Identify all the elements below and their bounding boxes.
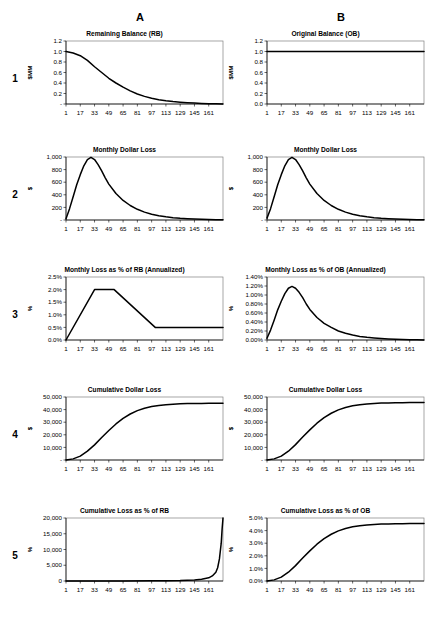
svg-text:129: 129 xyxy=(175,109,186,116)
svg-text:161: 161 xyxy=(204,465,215,472)
svg-text:20,000: 20,000 xyxy=(43,514,62,521)
svg-text:-: - xyxy=(60,456,62,463)
svg-text:0.0: 0.0 xyxy=(254,100,263,107)
svg-text:0.6: 0.6 xyxy=(53,69,62,76)
svg-text:15,000: 15,000 xyxy=(43,530,62,537)
svg-text:%: % xyxy=(26,546,33,552)
svg-text:1.2: 1.2 xyxy=(53,37,62,44)
svg-text:97: 97 xyxy=(349,345,356,352)
svg-text:129: 129 xyxy=(376,586,387,593)
svg-text:200: 200 xyxy=(52,204,63,211)
svg-text:145: 145 xyxy=(390,465,401,472)
svg-text:2.0%: 2.0% xyxy=(249,552,264,559)
svg-text:129: 129 xyxy=(376,225,387,232)
svg-text:30,000: 30,000 xyxy=(43,418,62,425)
svg-text:129: 129 xyxy=(376,465,387,472)
svg-text:33: 33 xyxy=(292,345,299,352)
svg-text:1: 1 xyxy=(265,586,269,593)
svg-text:0.0%: 0.0% xyxy=(249,577,264,584)
svg-text:81: 81 xyxy=(134,465,141,472)
svg-text:81: 81 xyxy=(335,225,342,232)
svg-text:600: 600 xyxy=(52,178,63,185)
row-number-3: 3 xyxy=(8,309,22,320)
svg-text:0.2: 0.2 xyxy=(254,90,263,97)
svg-text:33: 33 xyxy=(292,465,299,472)
svg-text:65: 65 xyxy=(321,586,328,593)
svg-text:81: 81 xyxy=(335,109,342,116)
svg-text:3.0%: 3.0% xyxy=(249,539,264,546)
chart-panel-r2b: Monthly Dollar Loss -2004006008001,00011… xyxy=(223,146,428,244)
svg-text:33: 33 xyxy=(91,109,98,116)
svg-text:200: 200 xyxy=(253,204,264,211)
svg-text:113: 113 xyxy=(161,465,171,472)
svg-text:49: 49 xyxy=(105,586,112,593)
svg-text:49: 49 xyxy=(105,225,112,232)
svg-text:65: 65 xyxy=(120,345,127,352)
svg-text:65: 65 xyxy=(321,465,328,472)
svg-text:145: 145 xyxy=(189,225,200,232)
svg-text:65: 65 xyxy=(120,109,127,116)
svg-text:145: 145 xyxy=(390,345,401,352)
svg-text:49: 49 xyxy=(306,345,313,352)
svg-text:145: 145 xyxy=(189,586,200,593)
svg-text:1.2: 1.2 xyxy=(254,37,263,44)
svg-text:1: 1 xyxy=(64,586,68,593)
svg-text:97: 97 xyxy=(349,586,356,593)
chart-panel-r4b: Cumulative Dollar Loss -10,00020,00030,0… xyxy=(223,386,428,484)
svg-text:0.8: 0.8 xyxy=(53,58,62,65)
svg-text:-: - xyxy=(60,216,62,223)
svg-text:33: 33 xyxy=(292,225,299,232)
svg-text:49: 49 xyxy=(105,109,112,116)
svg-text:81: 81 xyxy=(335,465,342,472)
svg-text:400: 400 xyxy=(253,191,264,198)
svg-text:161: 161 xyxy=(405,109,416,116)
svg-text:0.40%: 0.40% xyxy=(245,318,263,325)
svg-text:1: 1 xyxy=(64,109,68,116)
svg-text:65: 65 xyxy=(120,465,127,472)
chart-panel-r3a: Monthly Loss as % of RB (Annualized) 0.0… xyxy=(22,266,227,364)
svg-text:49: 49 xyxy=(306,465,313,472)
svg-text:-: - xyxy=(261,456,263,463)
svg-text:129: 129 xyxy=(175,586,186,593)
svg-text:600: 600 xyxy=(253,178,264,185)
svg-text:1: 1 xyxy=(64,345,68,352)
svg-text:%: % xyxy=(227,546,234,552)
svg-text:$: $ xyxy=(227,186,234,190)
svg-text:49: 49 xyxy=(105,345,112,352)
chart-panel-r2a: Monthly Dollar Loss -2004006008001,00011… xyxy=(22,146,227,244)
svg-text:161: 161 xyxy=(204,109,215,116)
svg-text:97: 97 xyxy=(349,465,356,472)
svg-text:800: 800 xyxy=(52,166,63,173)
svg-text:$MM: $MM xyxy=(26,66,33,80)
svg-text:145: 145 xyxy=(390,109,401,116)
svg-text:1.00%: 1.00% xyxy=(245,291,263,298)
svg-text:800: 800 xyxy=(253,166,264,173)
svg-text:1.0%: 1.0% xyxy=(249,565,264,572)
svg-text:161: 161 xyxy=(405,345,416,352)
svg-text:$: $ xyxy=(227,426,234,430)
column-header-b: B xyxy=(321,11,361,23)
svg-text:161: 161 xyxy=(204,586,215,593)
svg-text:17: 17 xyxy=(278,586,285,593)
svg-text:113: 113 xyxy=(161,109,171,116)
figure-sheet: A B 1 2 3 4 5 Remaining Balance (RB) -0.… xyxy=(0,0,448,619)
svg-text:161: 161 xyxy=(405,225,416,232)
svg-text:0.4: 0.4 xyxy=(254,79,263,86)
svg-text:20,000: 20,000 xyxy=(43,431,62,438)
svg-text:1.5%: 1.5% xyxy=(48,298,63,305)
svg-text:81: 81 xyxy=(134,345,141,352)
svg-text:1: 1 xyxy=(265,225,269,232)
svg-text:1.0: 1.0 xyxy=(254,48,263,55)
svg-text:33: 33 xyxy=(91,586,98,593)
svg-text:-: - xyxy=(261,216,263,223)
svg-text:17: 17 xyxy=(77,109,84,116)
svg-text:1: 1 xyxy=(265,345,269,352)
svg-text:145: 145 xyxy=(390,225,401,232)
svg-text:0.0%: 0.0% xyxy=(48,336,63,343)
svg-text:65: 65 xyxy=(321,109,328,116)
svg-text:49: 49 xyxy=(306,586,313,593)
svg-text:1,000: 1,000 xyxy=(47,153,63,160)
svg-text:17: 17 xyxy=(278,345,285,352)
svg-text:145: 145 xyxy=(189,345,200,352)
svg-text:129: 129 xyxy=(175,345,186,352)
